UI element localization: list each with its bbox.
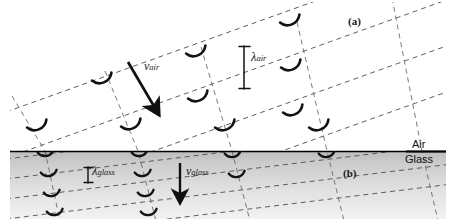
lambda-glass-label: λglass bbox=[92, 165, 115, 178]
medium-label-air: Air bbox=[412, 139, 425, 150]
panel-label-b: (b) bbox=[343, 168, 356, 179]
lambda-air-label: λair bbox=[251, 51, 266, 64]
v-air-label: vair bbox=[144, 60, 159, 72]
lambda-glass-subscript: glass bbox=[97, 167, 114, 177]
medium-label-glass: Glass bbox=[405, 154, 433, 165]
panel-label-a: (a) bbox=[348, 16, 361, 27]
lambda-air-bracket bbox=[239, 46, 250, 89]
lambda-air-subscript: air bbox=[256, 53, 266, 63]
figure-canvas: (a) (b) Air Glass λair vair λglass vglas… bbox=[0, 0, 451, 221]
v-glass-subscript: glass bbox=[191, 167, 208, 177]
air-wavefront-oscillators bbox=[27, 14, 331, 133]
glass-medium-region bbox=[10, 151, 446, 219]
v-air-subscript: air bbox=[149, 62, 159, 72]
v-glass-label: vglass bbox=[186, 165, 209, 177]
refraction-diagram bbox=[0, 0, 451, 221]
